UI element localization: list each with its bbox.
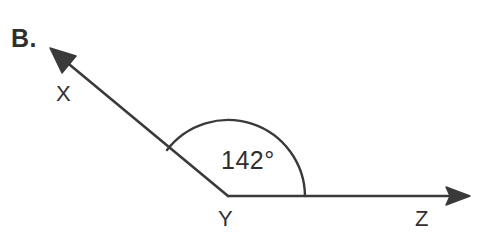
angle-diagram-svg xyxy=(0,0,483,249)
part-label: B. xyxy=(11,24,37,53)
angle-measure-label: 142° xyxy=(221,146,275,175)
diagram-canvas: B. X 142° Y Z xyxy=(0,0,483,249)
ray-yz xyxy=(228,187,470,205)
ray-yz-arrowhead xyxy=(446,187,470,205)
point-label-z: Z xyxy=(415,206,428,232)
ray-yx xyxy=(50,48,228,196)
point-label-y: Y xyxy=(218,206,233,232)
ray-yx-arrowhead xyxy=(50,48,76,73)
ray-yx-line xyxy=(64,60,228,196)
point-label-x: X xyxy=(56,81,71,107)
